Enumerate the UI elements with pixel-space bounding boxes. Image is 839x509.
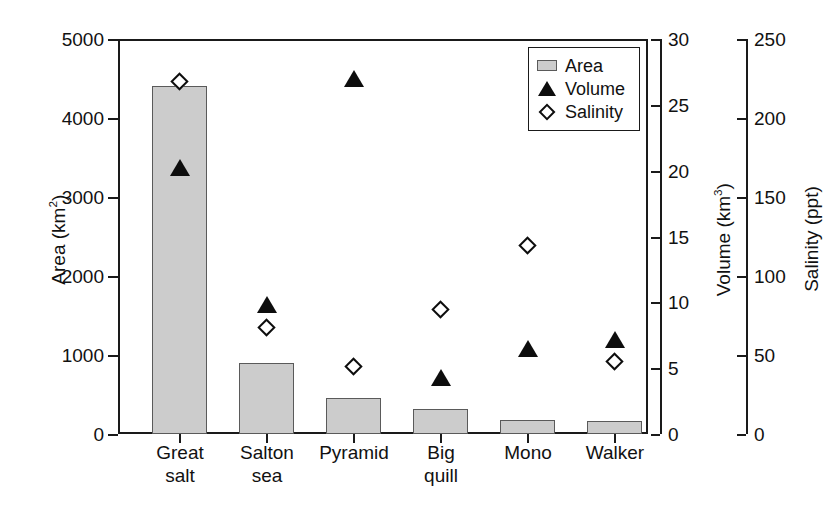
volume-tick-25: 25 [668,96,689,115]
left-tickmark-0 [108,434,118,436]
legend-label-volume: Volume [565,80,625,98]
volume-tick-5: 5 [668,359,679,378]
volume-tick-15: 15 [668,228,689,247]
volume-tickmark-20 [651,171,660,173]
legend-label-area: Area [565,57,603,75]
legend-bar-swatch-icon [536,60,558,71]
bar-big-quill [413,409,468,434]
marker-volume-mono [518,340,538,357]
x-label-mono: Mono [478,441,578,464]
volume-axis-title-post: ) [713,183,734,189]
bar-walker [587,421,642,434]
x-label-salton-sea: Salton sea [217,441,317,487]
marker-volume-big-quill [431,369,451,386]
salinity-tickmark-50 [737,355,746,357]
salinity-tick-50: 50 [754,346,775,365]
x-label-walker: Walker [565,441,665,464]
volume-axis-line [660,39,662,434]
chart-figure: 5000 4000 3000 2000 1000 0 Area (km2) Gr [0,0,839,509]
marker-volume-pyramid [344,70,364,87]
salinity-tick-150: 150 [754,188,786,207]
volume-tickmark-5 [651,368,660,370]
left-tickmark-3000 [108,197,118,199]
bar-great-salt [152,86,207,434]
volume-tickmark-0 [651,434,660,436]
left-tick-5000: 5000 [20,30,104,49]
salinity-tickmark-200 [737,118,746,120]
left-tickmark-2000 [108,276,118,278]
bar-pyramid [326,398,381,434]
volume-tick-30: 30 [668,30,689,49]
left-axis-title: Area (km2) [46,140,69,340]
salinity-tick-250: 250 [754,30,786,49]
volume-tick-10: 10 [668,293,689,312]
volume-tick-20: 20 [668,162,689,181]
left-tickmark-5000 [108,39,118,41]
x-label-pyramid: Pyramid [304,441,404,464]
left-axis-title-post: ) [48,195,69,201]
salinity-tickmark-150 [737,197,746,199]
legend-diamond-icon [536,106,558,118]
salinity-tickmark-100 [737,276,746,278]
marker-volume-walker [605,331,625,348]
salinity-tickmark-0 [737,434,746,436]
left-tick-1000: 1000 [20,346,104,365]
left-tickmark-4000 [108,118,118,120]
left-tickmark-1000 [108,355,118,357]
x-label-big-quill: Big quill [391,441,491,487]
legend-item-salinity: Salinity [536,100,639,123]
volume-axis-title-pre: Volume (km [713,196,734,296]
left-axis-title-pre: Area (km [48,208,69,285]
volume-tickmark-30 [651,39,660,41]
salinity-tick-0: 0 [754,425,765,444]
salinity-tickmark-250 [737,39,746,41]
salinity-axis-title: Salinity (ppt) [801,139,823,339]
bar-mono [500,420,555,434]
volume-axis-title-sup: 3 [711,189,724,196]
x-label-great-salt: Great salt [130,441,230,487]
left-tick-0: 0 [20,425,104,444]
volume-tickmark-25 [651,105,660,107]
left-axis-title-sup: 2 [46,201,59,208]
left-tick-4000: 4000 [20,109,104,128]
volume-tick-0: 0 [668,425,679,444]
marker-volume-great-salt [170,159,190,176]
legend-item-area: Area [536,54,639,77]
salinity-tick-100: 100 [754,267,786,286]
legend-label-salinity: Salinity [565,103,623,121]
volume-tickmark-10 [651,302,660,304]
legend-item-volume: Volume [536,77,639,100]
salinity-axis-line [746,39,748,434]
volume-tickmark-15 [651,237,660,239]
volume-axis-title: Volume (km3) [711,140,734,340]
marker-volume-salton-sea [257,296,277,313]
legend-triangle-icon [536,81,558,96]
chart-legend: Area Volume Salinity [528,47,640,131]
salinity-tick-200: 200 [754,109,786,128]
bar-salton-sea [239,363,294,434]
